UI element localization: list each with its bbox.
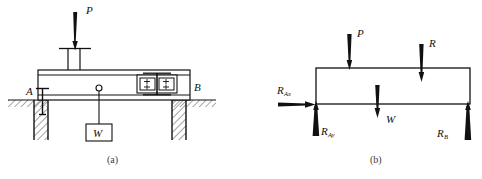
- label-weight-w-panel-a: W: [93, 127, 102, 139]
- reaction-rb-base: R: [437, 127, 444, 139]
- label-reaction-rax: RAx: [277, 85, 291, 96]
- load-arrow-p-a: [73, 12, 77, 44]
- fbd-reaction-arrow-ray: [313, 106, 320, 136]
- figure-container: P A B W (a) P R W RAx RAy RB (b): [0, 0, 482, 179]
- caption-panel-a: (a): [107, 155, 118, 165]
- figure-drawing: [0, 0, 482, 179]
- reaction-rax-subscript: Ax: [284, 90, 291, 97]
- splice-plate-left: [140, 78, 155, 90]
- label-load-r-panel-b: R: [429, 38, 436, 49]
- label-support-a: A: [26, 86, 33, 97]
- reaction-rax-base: R: [277, 84, 284, 96]
- fbd-load-arrow-w-head: [375, 108, 381, 118]
- fbd-reaction-arrow-rb: [465, 106, 472, 140]
- reaction-ray-base: R: [321, 125, 328, 137]
- label-support-b: B: [194, 82, 201, 93]
- reaction-ray-subscript: Ay: [328, 131, 335, 138]
- masonry-wall-left: [34, 100, 48, 140]
- label-load-w-panel-b: W: [386, 114, 395, 125]
- reaction-rb-subscript: B: [444, 133, 448, 140]
- caption-panel-b: (b): [370, 155, 382, 165]
- label-reaction-rb: RB: [437, 128, 448, 139]
- fbd-reaction-arrow-rax-head: [305, 101, 316, 108]
- fbd-reaction-arrow-rax: [278, 103, 306, 107]
- fbd-load-arrow-p: [347, 34, 351, 62]
- label-reaction-ray: RAy: [321, 126, 334, 137]
- label-load-p-panel-a: P: [86, 5, 93, 16]
- splice-plate-right: [159, 78, 174, 90]
- label-load-p-panel-b: P: [357, 28, 364, 39]
- fbd-beam-outline: [316, 68, 470, 104]
- masonry-wall-right: [172, 100, 186, 140]
- hanger-eye: [96, 85, 102, 91]
- panel-a-drawing: [8, 12, 216, 141]
- panel-b-drawing: [278, 34, 471, 140]
